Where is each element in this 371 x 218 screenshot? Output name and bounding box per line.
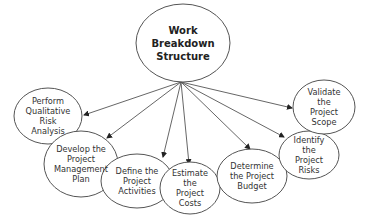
node-ellipse-estimate-costs (160, 162, 220, 214)
arrow-to-perform-risk-analysis (84, 82, 181, 115)
nodes-group (14, 4, 355, 214)
arrow-to-identify-risks (181, 82, 284, 137)
node-ellipse-determine-budget (217, 149, 287, 203)
wbs-diagram (0, 0, 371, 218)
arrow-to-determine-budget (181, 82, 250, 149)
arrow-to-estimate-costs (181, 82, 189, 164)
root-node-ellipse (136, 4, 230, 82)
node-ellipse-validate-scope (293, 80, 355, 134)
arrow-to-validate-scope (181, 82, 292, 108)
node-ellipse-identify-risks (279, 131, 339, 179)
